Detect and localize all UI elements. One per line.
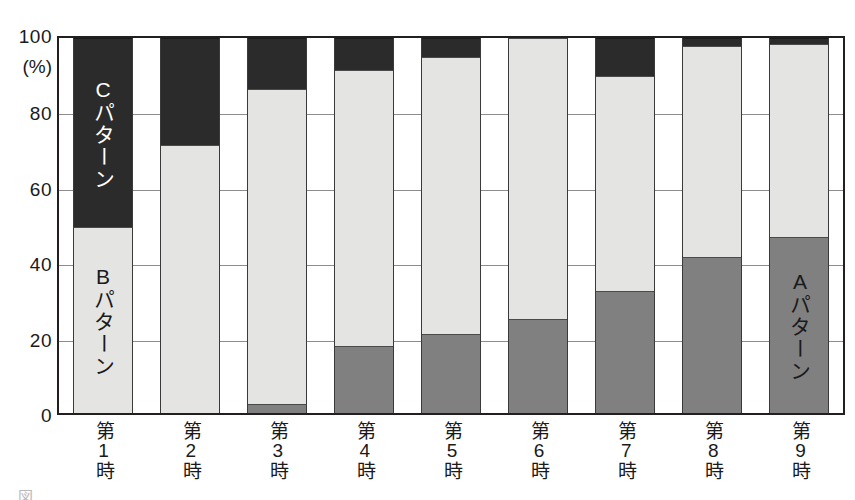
bar-segment-b[interactable] [160, 145, 220, 413]
bar-segment-c[interactable] [769, 38, 829, 44]
bar-group [247, 38, 307, 413]
bar-group [508, 38, 568, 413]
x-axis-label: 第3時 [267, 421, 288, 480]
bar-annotation-label: Cパターン [92, 78, 114, 190]
stacked-bar[interactable] [334, 38, 394, 413]
stacked-bar[interactable] [247, 38, 307, 413]
y-axis-unit-label: (%) [22, 57, 52, 76]
y-tick-label-80: 80 [30, 104, 52, 123]
bar-segment-b[interactable] [247, 89, 307, 404]
bar-group [682, 38, 742, 413]
y-tick-label-60: 60 [30, 180, 52, 199]
bar-segment-b[interactable] [595, 76, 655, 292]
y-tick-label-0: 0 [41, 406, 52, 425]
plot-area: CパターンBパターンAパターン [57, 36, 845, 415]
x-axis-label: 第2時 [180, 421, 201, 480]
bar-group: Aパターン [769, 38, 829, 413]
stacked-bar-chart: 100 (%) 80 60 40 20 0 CパターンBパターンAパターン 第1… [0, 0, 855, 500]
bars-layer: CパターンBパターンAパターン [59, 38, 843, 413]
y-axis: 100 (%) 80 60 40 20 0 [0, 0, 52, 500]
stacked-bar[interactable] [508, 38, 568, 413]
bar-segment-b[interactable] [769, 44, 829, 237]
bar-group [160, 38, 220, 413]
stacked-bar[interactable] [421, 38, 481, 413]
bar-segment-a[interactable] [334, 346, 394, 414]
x-axis-label: 第5時 [441, 421, 462, 480]
y-tick-label-40: 40 [30, 255, 52, 274]
x-axis-label: 第7時 [615, 421, 636, 480]
y-tick-label-100: 100 [19, 27, 52, 46]
bar-segment-a[interactable] [595, 291, 655, 413]
stacked-bar[interactable] [595, 38, 655, 413]
bar-segment-b[interactable] [334, 70, 394, 346]
bar-segment-b[interactable] [682, 46, 742, 258]
figure-caption: 図 [18, 489, 718, 500]
x-axis-label: 第4時 [354, 421, 375, 480]
stacked-bar[interactable] [160, 38, 220, 413]
bar-segment-c[interactable] [421, 38, 481, 57]
bar-segment-b[interactable] [421, 57, 481, 335]
bar-segment-b[interactable] [508, 38, 568, 319]
stacked-bar[interactable]: Aパターン [769, 38, 829, 413]
bar-annotation-label: Bパターン [92, 265, 114, 377]
bar-segment-a[interactable] [508, 319, 568, 413]
bar-segment-c[interactable] [595, 38, 655, 76]
bar-group [595, 38, 655, 413]
bar-annotation-label: Aパターン [788, 270, 810, 382]
bar-segment-c[interactable] [160, 38, 220, 145]
x-axis-label: 第1時 [93, 421, 114, 480]
bar-group: CパターンBパターン [73, 38, 133, 413]
x-axis-label: 第6時 [528, 421, 549, 480]
x-axis-label: 第9時 [789, 421, 810, 480]
bar-segment-a[interactable] [421, 334, 481, 413]
bar-group [421, 38, 481, 413]
stacked-bar[interactable]: CパターンBパターン [73, 38, 133, 413]
y-tick-label-20: 20 [30, 331, 52, 350]
bar-group [334, 38, 394, 413]
bar-segment-c[interactable] [334, 38, 394, 70]
x-axis-label: 第8時 [702, 421, 723, 480]
stacked-bar[interactable] [682, 38, 742, 413]
bar-segment-c[interactable] [682, 38, 742, 46]
bar-segment-a[interactable] [247, 404, 307, 413]
bar-segment-c[interactable] [247, 38, 307, 89]
bar-segment-a[interactable] [682, 257, 742, 413]
